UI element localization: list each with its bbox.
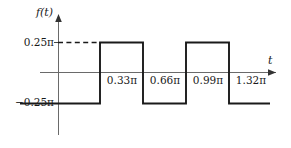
f-axis bbox=[55, 14, 62, 135]
x-tick-label-2: 0.99π bbox=[187, 74, 229, 86]
square-wave-figure: f(t) t 0.25π −0.25π 0.33π 0.66π 0.99π 1.… bbox=[0, 0, 291, 148]
x-tick-label-3: 1.32π bbox=[230, 74, 272, 86]
y-tick-label-positive: 0.25π bbox=[2, 36, 54, 48]
t-axis-label: t bbox=[268, 54, 272, 67]
x-tick-label-1: 0.66π bbox=[144, 74, 186, 86]
y-tick-label-negative: −0.25π bbox=[0, 96, 54, 108]
f-axis-arrowhead bbox=[55, 14, 62, 22]
f-axis-label: f(t) bbox=[36, 6, 53, 19]
x-tick-label-0: 0.33π bbox=[101, 74, 143, 86]
